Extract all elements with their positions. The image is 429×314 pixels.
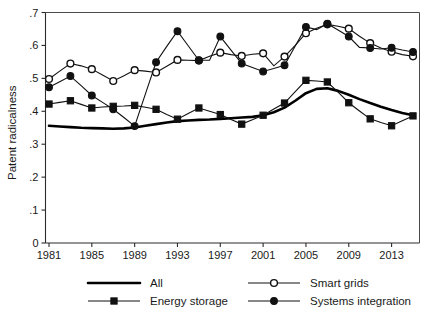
data-point-systems-integration: [110, 106, 117, 113]
legend-label: All: [150, 277, 163, 289]
data-point-energy-storage: [367, 116, 373, 122]
data-point-systems-integration: [260, 68, 267, 75]
data-point-systems-integration: [324, 20, 331, 27]
data-point-smart-grids: [131, 67, 138, 74]
x-tick-label: 2001: [251, 249, 275, 261]
data-point-smart-grids: [281, 53, 288, 60]
y-tick-label: .7: [29, 7, 38, 19]
data-point-systems-integration: [410, 49, 417, 56]
data-point-systems-integration: [281, 62, 288, 69]
x-tick-label: 2013: [379, 249, 403, 261]
data-point-systems-integration: [345, 33, 352, 40]
x-tick-label: 1985: [80, 249, 104, 261]
data-point-smart-grids: [238, 53, 245, 60]
data-point-energy-storage: [239, 121, 245, 127]
y-tick-label: .4: [29, 105, 38, 117]
data-point-systems-integration: [153, 59, 160, 66]
data-point-energy-storage: [281, 100, 287, 106]
data-point-systems-integration: [46, 84, 53, 91]
data-point-energy-storage: [410, 113, 416, 119]
chart-figure: Patent radicalness 0.1.2.3.4.5.6.7 19811…: [0, 0, 429, 314]
x-tick-label: 1981: [37, 249, 61, 261]
data-point-systems-integration: [303, 24, 310, 31]
legend-label: Energy storage: [150, 295, 228, 307]
data-point-systems-integration: [195, 57, 202, 64]
y-tick-label: .1: [29, 204, 38, 216]
data-point-smart-grids: [153, 69, 160, 76]
data-point-systems-integration: [67, 73, 74, 80]
cropped-title-remnant: [55, 0, 98, 10]
legend-label: Systems integration: [310, 295, 411, 307]
y-tick-label: .6: [29, 39, 38, 51]
data-point-energy-storage: [174, 116, 180, 122]
data-point-smart-grids: [217, 49, 224, 56]
y-tick-label: 0: [32, 237, 38, 249]
y-tick-label: .5: [29, 72, 38, 84]
data-point-smart-grids: [345, 25, 352, 32]
data-point-energy-storage: [196, 105, 202, 111]
x-tick-label: 2009: [337, 249, 361, 261]
x-axis-ticks: 198119851989199319972001200520092013: [37, 243, 404, 261]
data-point-systems-integration: [217, 33, 224, 40]
data-point-systems-integration: [88, 92, 95, 99]
data-point-smart-grids: [46, 76, 53, 83]
data-point-systems-integration: [238, 60, 245, 67]
chart-background: [0, 0, 429, 314]
data-point-energy-storage: [67, 98, 73, 104]
legend-label: Smart grids: [310, 277, 369, 289]
data-point-systems-integration: [174, 28, 181, 35]
y-tick-label: .2: [29, 171, 38, 183]
data-point-energy-storage: [89, 105, 95, 111]
y-axis-title: Patent radicalness: [6, 85, 18, 180]
x-tick-label: 2005: [294, 249, 318, 261]
data-point-systems-integration: [367, 45, 374, 52]
data-point-energy-storage: [303, 77, 309, 83]
data-point-smart-grids: [260, 50, 267, 57]
legend-swatch-marker: [271, 280, 278, 287]
x-tick-label: 1997: [208, 249, 232, 261]
data-point-smart-grids: [174, 57, 181, 64]
data-point-smart-grids: [110, 78, 117, 85]
y-tick-label: .3: [29, 138, 38, 150]
data-point-energy-storage: [324, 79, 330, 85]
data-point-smart-grids: [67, 60, 74, 67]
x-tick-label: 1989: [122, 249, 146, 261]
data-point-energy-storage: [217, 111, 223, 117]
x-tick-label: 1993: [165, 249, 189, 261]
legend-swatch-marker: [271, 298, 278, 305]
data-point-energy-storage: [388, 123, 394, 129]
data-point-systems-integration: [388, 44, 395, 51]
data-point-energy-storage: [46, 101, 52, 107]
data-point-energy-storage: [132, 102, 138, 108]
data-point-smart-grids: [88, 66, 95, 73]
data-point-systems-integration: [131, 123, 138, 130]
legend-swatch-marker: [111, 298, 117, 304]
data-point-energy-storage: [153, 106, 159, 112]
data-point-energy-storage: [346, 100, 352, 106]
data-point-energy-storage: [260, 112, 266, 118]
patent-radicalness-line-chart: Patent radicalness 0.1.2.3.4.5.6.7 19811…: [0, 0, 429, 314]
